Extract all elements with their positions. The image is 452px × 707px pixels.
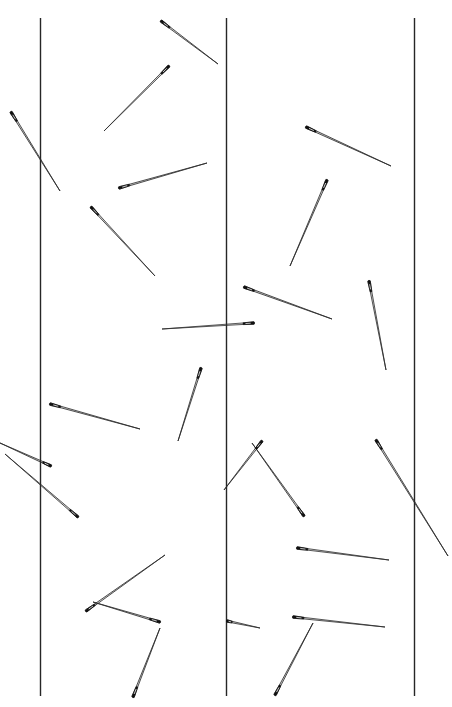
buffon-needle-figure — [0, 0, 452, 707]
needle-scatter-canvas — [0, 0, 452, 707]
